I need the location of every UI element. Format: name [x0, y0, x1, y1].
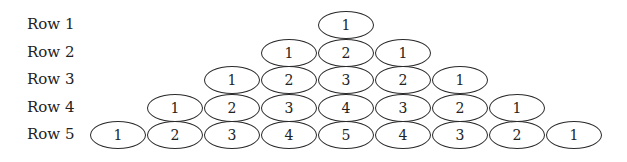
- row-label: Row 2: [27, 43, 74, 61]
- pyramid-cell: 1: [90, 121, 146, 149]
- row-label: Row 5: [27, 125, 74, 143]
- pyramid-cell: 3: [432, 121, 488, 149]
- pyramid-cell: 1: [489, 94, 545, 122]
- pyramid-cell: 1: [546, 121, 602, 149]
- pyramid-cell: 4: [261, 121, 317, 149]
- pyramid-cell: 2: [147, 121, 203, 149]
- pyramid-cell: 2: [432, 94, 488, 122]
- pyramid-cell: 4: [318, 94, 374, 122]
- row-label: Row 4: [27, 98, 74, 116]
- pyramid-cell: 2: [261, 66, 317, 94]
- pyramid-cell: 1: [147, 94, 203, 122]
- pyramid-cell: 2: [489, 121, 545, 149]
- row-label: Row 3: [27, 70, 74, 88]
- pyramid-cell: 1: [204, 66, 260, 94]
- pyramid-cell: 1: [375, 39, 431, 67]
- pyramid-cell: 3: [204, 121, 260, 149]
- row-label: Row 1: [27, 15, 74, 33]
- pyramid-cell: 1: [432, 66, 488, 94]
- pyramid-cell: 1: [318, 11, 374, 39]
- pyramid-cell: 1: [261, 39, 317, 67]
- pyramid-cell: 4: [375, 121, 431, 149]
- pyramid-cell: 3: [318, 66, 374, 94]
- pyramid-cell: 5: [318, 121, 374, 149]
- pyramid-cell: 2: [318, 39, 374, 67]
- pyramid-cell: 3: [261, 94, 317, 122]
- pyramid-cell: 3: [375, 94, 431, 122]
- pyramid-cell: 2: [204, 94, 260, 122]
- pyramid-cell: 2: [375, 66, 431, 94]
